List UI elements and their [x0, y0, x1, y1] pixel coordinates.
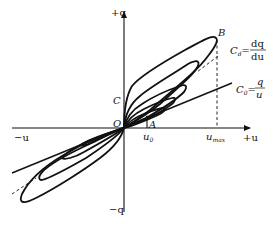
cd-numerator: dq — [251, 38, 264, 49]
umax-label: umax — [206, 131, 226, 143]
cd-denominator: du — [251, 51, 264, 62]
point-b-label: B — [217, 27, 225, 38]
svg-text:C0=: C0= — [236, 84, 256, 96]
c0-denominator: u — [256, 89, 262, 100]
origin-label: O — [113, 118, 121, 129]
cd-formula: Cd= dq du — [230, 38, 266, 62]
u-negative-label: −u — [14, 132, 29, 143]
point-a-label: A — [148, 119, 156, 130]
c0-numerator: q — [257, 76, 263, 87]
svg-text:Cd=: Cd= — [230, 45, 250, 57]
c0-formula: C0= q u — [236, 76, 265, 100]
hysteresis-diagram: +q −q −u +u O B C A u0 umax Cd= dq du C0… — [0, 0, 273, 229]
point-c-label: C — [113, 95, 121, 106]
q-positive-label: +q — [111, 7, 126, 18]
cd-tangent-upper — [197, 56, 218, 72]
diagram-canvas: +q −q −u +u O B C A u0 umax Cd= dq du C0… — [0, 0, 273, 229]
u0-label: u0 — [143, 131, 153, 143]
loop-outer-upper — [124, 37, 217, 128]
u-positive-label: +u — [243, 132, 258, 143]
q-negative-label: −q — [109, 204, 124, 215]
